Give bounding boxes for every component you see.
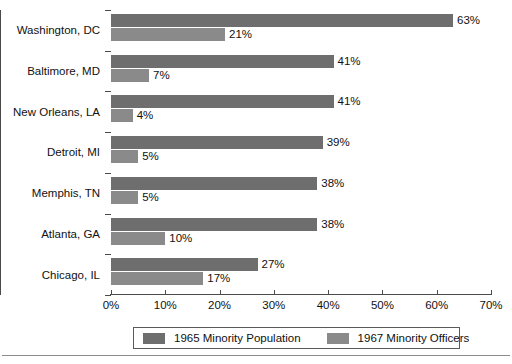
bar-1 — [111, 109, 133, 122]
category-label: Atlanta, GA — [0, 228, 100, 240]
x-axis-tick-label: 60% — [412, 298, 462, 312]
x-axis-tick-label: 50% — [357, 298, 407, 312]
bar-value-label: 5% — [142, 191, 159, 204]
bar-value-label: 38% — [321, 218, 344, 231]
legend-label: 1965 Minority Population — [174, 332, 301, 344]
bar-1 — [111, 191, 138, 204]
bar-1 — [111, 28, 225, 41]
bar-value-label: 39% — [327, 136, 350, 149]
bar-row: Chicago, IL27%17% — [0, 254, 512, 295]
x-axis-tick-label: 20% — [195, 298, 245, 312]
x-axis-tick-label: 40% — [303, 298, 353, 312]
bar-1 — [111, 272, 203, 285]
bar-row: Washington, DC63%21% — [0, 10, 512, 51]
bar-value-label: 41% — [338, 55, 361, 68]
legend-label: 1967 Minority Officers — [358, 332, 470, 344]
category-label: Baltimore, MD — [0, 65, 100, 77]
category-label: New Orleans, LA — [0, 106, 100, 118]
bar-row: New Orleans, LA41%4% — [0, 91, 512, 132]
bar-0 — [111, 177, 317, 190]
bar-value-label: 27% — [262, 258, 285, 271]
bar-value-label: 21% — [229, 28, 252, 41]
legend-entry[interactable]: 1965 Minority Population — [143, 332, 301, 344]
category-label: Chicago, IL — [0, 269, 100, 281]
bar-value-label: 7% — [153, 69, 170, 82]
bar-value-label: 4% — [137, 109, 154, 122]
bar-value-label: 5% — [142, 150, 159, 163]
legend-swatch — [143, 333, 165, 344]
x-axis-tick-label: 30% — [249, 298, 299, 312]
chart-legend: 1965 Minority Population1967 Minority Of… — [133, 327, 460, 349]
bar-value-label: 63% — [457, 14, 480, 27]
category-label: Memphis, TN — [0, 187, 100, 199]
bar-value-label: 10% — [169, 232, 192, 245]
bar-0 — [111, 14, 453, 27]
bar-value-label: 17% — [207, 272, 230, 285]
x-axis-tick-label: 0% — [86, 298, 136, 312]
bar-chart: Washington, DC63%21%Baltimore, MD41%7%Ne… — [0, 0, 512, 364]
bar-row: Atlanta, GA38%10% — [0, 214, 512, 255]
x-axis-tick-label: 10% — [140, 298, 190, 312]
bar-0 — [111, 258, 258, 271]
footer-divider — [2, 355, 510, 356]
bar-row: Detroit, MI39%5% — [0, 132, 512, 173]
y-axis-tick — [105, 295, 111, 296]
bar-0 — [111, 95, 334, 108]
legend-entry[interactable]: 1967 Minority Officers — [327, 332, 470, 344]
bar-1 — [111, 150, 138, 163]
category-label: Detroit, MI — [0, 146, 100, 158]
x-axis-tick-label: 70% — [466, 298, 512, 312]
bar-value-label: 41% — [338, 95, 361, 108]
bar-1 — [111, 69, 149, 82]
legend-swatch — [327, 333, 349, 344]
bar-0 — [111, 136, 323, 149]
bar-value-label: 38% — [321, 177, 344, 190]
bar-row: Memphis, TN38%5% — [0, 173, 512, 214]
bar-row: Baltimore, MD41%7% — [0, 51, 512, 92]
bar-0 — [111, 218, 317, 231]
bar-1 — [111, 232, 165, 245]
category-label: Washington, DC — [0, 24, 100, 36]
bar-0 — [111, 55, 334, 68]
